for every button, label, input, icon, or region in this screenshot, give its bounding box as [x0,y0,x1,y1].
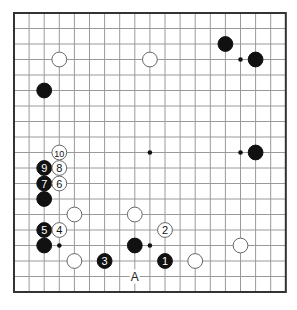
marker-A: A [130,270,140,285]
black-stone [37,192,52,207]
black-stone [248,145,263,160]
svg-text:6: 6 [56,178,62,190]
star-point [238,150,243,155]
star-point [238,57,243,62]
go-board: A 10987654231 [0,0,297,310]
black-stone-1: 1 [158,254,173,269]
white-stone-2: 2 [158,223,173,238]
black-stone [37,83,52,98]
black-stone [37,238,52,253]
white-stone-4: 4 [52,223,67,238]
svg-text:5: 5 [41,224,47,236]
black-stone [248,52,263,67]
star-point [57,243,62,248]
white-stone-6: 6 [52,176,67,191]
svg-text:2: 2 [162,224,168,236]
black-stone-7: 7 [37,176,52,191]
star-point [148,243,153,248]
svg-text:7: 7 [41,178,47,190]
white-stone [67,254,82,269]
svg-text:8: 8 [56,162,62,174]
black-stone-5: 5 [37,223,52,238]
black-stone [218,37,233,52]
svg-text:3: 3 [102,255,108,267]
svg-text:1: 1 [162,255,168,267]
white-stone [52,52,67,67]
white-stone-8: 8 [52,161,67,176]
white-stone [233,238,248,253]
black-stone [127,238,142,253]
star-point [148,150,153,155]
white-stone [143,52,158,67]
white-stone [188,254,203,269]
svg-text:A: A [131,270,139,284]
white-stone [127,207,142,222]
white-stone-10: 10 [52,145,67,160]
svg-text:9: 9 [41,162,47,174]
svg-text:10: 10 [54,149,64,159]
svg-text:4: 4 [56,224,62,236]
board-markers: A [130,270,140,285]
black-stone-3: 3 [97,254,112,269]
black-stone-9: 9 [37,161,52,176]
white-stone [67,207,82,222]
